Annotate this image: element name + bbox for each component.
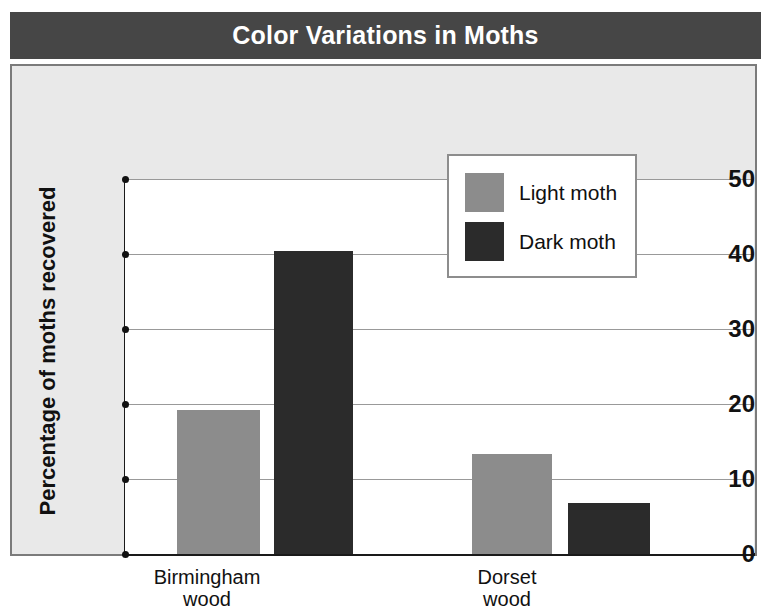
y-axis-tick-mark [122, 476, 129, 483]
legend-label: Light moth [519, 181, 617, 205]
x-axis-category-label-line2: wood [102, 588, 312, 610]
legend-label: Dark moth [519, 230, 616, 254]
birmingham-light-moth-bar [177, 410, 260, 554]
y-axis-tick-mark [122, 176, 129, 183]
legend-entry-dark-moth: Dark moth [465, 222, 616, 261]
page-title: Color Variations in Moths [232, 21, 538, 50]
chart-panel: Percentage of moths recovered Light moth… [10, 64, 757, 556]
x-axis-category-label: Birminghamwood [102, 566, 312, 610]
x-axis-category-label-line2: wood [402, 588, 612, 610]
chart-title-bar: Color Variations in Moths [10, 12, 761, 59]
birmingham-dark-moth-bar [274, 251, 353, 554]
x-axis-category-label: Dorsetwood [402, 566, 612, 610]
dorset-dark-moth-bar [568, 503, 650, 554]
y-axis-tick-label: 30 [703, 317, 755, 341]
y-axis-tick-label: 20 [703, 392, 755, 416]
dorset-light-moth-bar [472, 454, 552, 555]
y-axis-tick-label: 0 [703, 542, 755, 566]
x-axis-category-label-line1: Birmingham [102, 566, 312, 588]
y-axis-tick-labels [52, 66, 116, 554]
y-axis-tick-mark [122, 401, 129, 408]
gridline [125, 179, 754, 180]
x-axis-category-label-line1: Dorset [402, 566, 612, 588]
chart-legend: Light mothDark moth [447, 154, 637, 278]
y-axis-tick-label: 10 [703, 467, 755, 491]
y-axis-tick-label: 40 [703, 242, 755, 266]
y-axis-tick-mark [122, 551, 129, 558]
y-axis-tick-label: 50 [703, 167, 755, 191]
gridline [125, 329, 754, 330]
y-axis-tick-mark [122, 251, 129, 258]
gridline [125, 254, 754, 255]
gridline [125, 404, 754, 405]
y-axis-tick-mark [122, 326, 129, 333]
legend-swatch-icon [465, 222, 504, 261]
plot-area [125, 179, 754, 554]
legend-entry-light-moth: Light moth [465, 173, 617, 212]
legend-swatch-icon [465, 173, 504, 212]
